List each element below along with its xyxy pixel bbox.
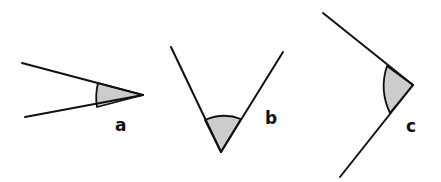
angle-a-lower-ray: [25, 95, 143, 117]
angle-a-label: a: [115, 115, 126, 135]
angle-b: b: [171, 47, 283, 152]
angle-a: a: [22, 63, 143, 135]
angle-b-left-ray: [171, 47, 221, 152]
angle-c-upper-ray: [323, 13, 413, 85]
angle-b-sector: [205, 116, 241, 152]
angles-diagram: a b c: [0, 0, 441, 182]
angle-b-label: b: [265, 108, 277, 128]
angle-a-upper-ray: [22, 63, 143, 95]
angle-b-right-ray: [221, 52, 283, 152]
angle-c-lower-ray: [340, 85, 413, 177]
angle-c: c: [323, 13, 416, 177]
angle-c-label: c: [406, 116, 416, 136]
